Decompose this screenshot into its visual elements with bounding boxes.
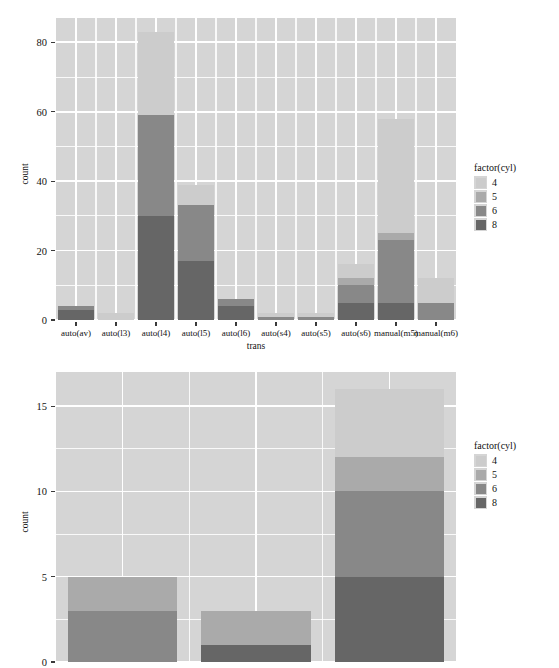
bar-segment-cyl-6 xyxy=(58,306,93,309)
bar-segment-cyl-6 xyxy=(378,240,413,302)
stacked-bar xyxy=(418,278,453,320)
gridline-minor-vertical xyxy=(335,18,336,320)
x-tick-label: auto(l4) xyxy=(142,328,171,338)
y-tick-mark xyxy=(51,111,55,112)
y-axis-title-bottom: count xyxy=(20,511,30,532)
legend-label: 8 xyxy=(492,496,497,509)
legend-title: factor(cyl) xyxy=(474,440,516,451)
bar-segment-cyl-8 xyxy=(335,577,444,662)
legend-bottom: factor(cyl)4568 xyxy=(474,440,516,510)
chart-panel-bottom: 051015 count factor(cyl)4568 xyxy=(0,360,559,665)
gridline-minor-vertical xyxy=(135,18,136,320)
legend-swatch-cyl-6 xyxy=(476,206,486,216)
gridline-major-vertical xyxy=(315,18,317,320)
gridline-minor-vertical xyxy=(415,18,416,320)
bar-segment-cyl-6 xyxy=(258,317,293,320)
x-tick-mark xyxy=(155,322,156,326)
x-tick-label: auto(l3) xyxy=(102,328,131,338)
bar-segment-cyl-6 xyxy=(218,299,253,306)
legend-item: 4 xyxy=(474,176,516,189)
x-tick-label: auto(s4) xyxy=(261,328,291,338)
gridline-minor-vertical xyxy=(189,372,190,662)
legend-swatch-cyl-4 xyxy=(476,456,486,466)
bar-segment-cyl-4 xyxy=(178,185,213,206)
bar-segment-cyl-4 xyxy=(98,313,133,320)
legend-item: 5 xyxy=(474,468,516,481)
bar-segment-cyl-4 xyxy=(338,264,373,278)
legend-key-background xyxy=(474,204,487,217)
legend-swatch-cyl-5 xyxy=(476,470,486,480)
bar-segment-cyl-5 xyxy=(68,577,177,611)
legend-label: 8 xyxy=(492,218,497,231)
y-tick-label: 80 xyxy=(37,37,48,48)
bar-segment-cyl-6 xyxy=(418,303,453,320)
stacked-bar xyxy=(298,313,333,320)
legend-swatch-cyl-4 xyxy=(476,178,486,188)
stacked-bar xyxy=(68,577,177,662)
x-tick-label: auto(av) xyxy=(61,328,91,338)
bar-segment-cyl-5 xyxy=(201,611,310,645)
legend-label: 5 xyxy=(492,468,497,481)
bar-segment-cyl-6 xyxy=(68,611,177,662)
gridline-minor-vertical xyxy=(322,372,323,662)
plot-area-bottom xyxy=(56,372,456,662)
y-tick-mark xyxy=(51,42,55,43)
bar-segment-cyl-6 xyxy=(138,115,173,216)
legend-key-background xyxy=(474,218,487,231)
legend-title: factor(cyl) xyxy=(474,162,516,173)
legend-key-background xyxy=(474,496,487,509)
y-tick-label: 60 xyxy=(37,106,48,117)
bar-segment-cyl-8 xyxy=(201,645,310,662)
y-tick-label: 20 xyxy=(37,245,48,256)
y-tick-mark xyxy=(51,491,55,492)
bar-segment-cyl-8 xyxy=(138,216,173,320)
x-tick-label: manual(m5) xyxy=(374,328,418,338)
bar-segment-cyl-8 xyxy=(338,303,373,320)
gridline-minor-vertical xyxy=(95,18,96,320)
legend-label: 6 xyxy=(492,204,497,217)
legend-key-background xyxy=(474,176,487,189)
legend-item: 4 xyxy=(474,454,516,467)
bar-segment-cyl-4 xyxy=(138,32,173,115)
bar-segment-cyl-4 xyxy=(378,119,413,234)
bar-segment-cyl-6 xyxy=(178,205,213,261)
stacked-bar xyxy=(58,306,93,320)
bar-segment-cyl-6 xyxy=(335,491,444,576)
x-tick-label: manual(m6) xyxy=(414,328,458,338)
bar-segment-cyl-4 xyxy=(298,313,333,316)
gridline-minor-vertical xyxy=(175,18,176,320)
bar-segment-cyl-4 xyxy=(418,278,453,302)
stacked-bar xyxy=(98,313,133,320)
legend-item: 8 xyxy=(474,496,516,509)
bar-segment-cyl-5 xyxy=(378,233,413,240)
x-tick-mark xyxy=(435,322,436,326)
bar-segment-cyl-4 xyxy=(258,313,293,316)
legend-item: 6 xyxy=(474,482,516,495)
gridline-minor-vertical xyxy=(255,18,256,320)
legend-item: 8 xyxy=(474,218,516,231)
stacked-bar xyxy=(178,185,213,320)
bar-segment-cyl-8 xyxy=(378,303,413,320)
bar-segment-cyl-5 xyxy=(335,457,444,491)
stacked-bar xyxy=(378,119,413,320)
gridline-major-vertical xyxy=(235,18,237,320)
chart-panel-top: 020406080auto(av)auto(l3)auto(l4)auto(l5… xyxy=(0,0,559,360)
y-tick-mark xyxy=(51,406,55,407)
y-tick-label: 10 xyxy=(37,486,48,497)
gridline-major-vertical xyxy=(435,18,437,320)
y-tick-label: 0 xyxy=(42,315,47,326)
legend-label: 6 xyxy=(492,482,497,495)
legend-label: 5 xyxy=(492,190,497,203)
x-tick-mark xyxy=(235,322,236,326)
y-axis-title-top: count xyxy=(20,163,30,184)
stacked-bar xyxy=(258,313,293,320)
stacked-bar xyxy=(335,389,444,662)
plot-area-top xyxy=(56,18,456,320)
gridline-minor-vertical xyxy=(215,18,216,320)
x-axis-title-top: trans xyxy=(56,341,456,351)
bar-segment-cyl-6 xyxy=(298,317,333,320)
y-tick-label: 15 xyxy=(37,401,48,412)
x-tick-label: auto(s6) xyxy=(341,328,371,338)
y-tick-mark xyxy=(51,250,55,251)
y-tick-mark xyxy=(51,661,55,662)
